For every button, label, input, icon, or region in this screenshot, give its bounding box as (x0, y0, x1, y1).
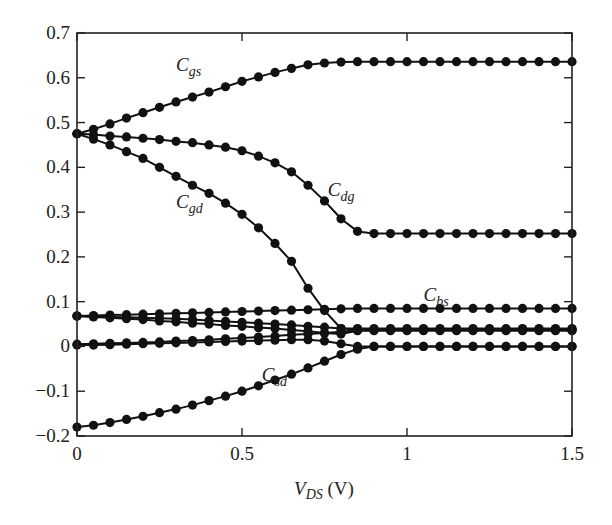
y-tick-label: 0.5 (46, 112, 70, 133)
data-point (254, 152, 263, 161)
data-point (221, 143, 230, 152)
data-point (122, 415, 131, 424)
data-point (369, 325, 378, 334)
data-point (122, 314, 131, 323)
data-point (138, 154, 147, 163)
data-point (303, 284, 312, 293)
data-point (320, 305, 329, 314)
data-point (155, 163, 164, 172)
data-point (270, 239, 279, 248)
data-point (435, 57, 444, 66)
data-point (303, 60, 312, 69)
y-tick-label: 0.2 (46, 246, 70, 267)
data-point (204, 88, 213, 97)
curve-c-gd (77, 134, 572, 330)
data-point (204, 396, 213, 405)
data-point (419, 342, 428, 351)
data-point (188, 401, 197, 410)
data-point (204, 337, 213, 346)
data-point (402, 304, 411, 313)
data-point (237, 210, 246, 219)
curve-c-dg (77, 134, 572, 234)
data-point (155, 339, 164, 348)
data-point (171, 97, 180, 106)
y-tick-label: 0.1 (46, 291, 70, 312)
x-tick-label: 0 (72, 443, 82, 464)
data-point (204, 140, 213, 149)
data-point (155, 316, 164, 325)
data-point (171, 405, 180, 414)
y-tick-label: −0.2 (36, 425, 70, 446)
data-point (402, 57, 411, 66)
x-axis-label: VDS (V) (294, 478, 354, 502)
data-point (419, 229, 428, 238)
label-c-bs: Cbs (424, 284, 450, 309)
data-point (435, 229, 444, 238)
y-tick-label: 0.4 (46, 156, 70, 177)
data-point (138, 134, 147, 143)
data-point (155, 103, 164, 112)
data-point (188, 92, 197, 101)
data-point (270, 306, 279, 315)
data-point (402, 229, 411, 238)
data-point (237, 77, 246, 86)
data-point (270, 336, 279, 345)
data-point (336, 214, 345, 223)
data-point (452, 342, 461, 351)
y-tick-label: 0 (61, 335, 71, 356)
data-point (435, 325, 444, 334)
data-point (221, 199, 230, 208)
data-point (551, 342, 560, 351)
data-point (155, 135, 164, 144)
data-point (485, 229, 494, 238)
data-point (254, 323, 263, 332)
data-point (386, 342, 395, 351)
data-point (501, 325, 510, 334)
data-point (204, 308, 213, 317)
data-point (468, 325, 477, 334)
data-point (221, 321, 230, 330)
data-point (155, 408, 164, 417)
data-point (188, 338, 197, 347)
label-c-gs: Cgs (176, 54, 202, 79)
data-point (89, 312, 98, 321)
data-point (171, 172, 180, 181)
data-point (369, 229, 378, 238)
axis-ticks: 00.511.5−0.2−0.100.10.20.30.40.50.60.7 (36, 22, 584, 464)
data-point (138, 108, 147, 117)
data-point (287, 167, 296, 176)
data-point (237, 387, 246, 396)
data-point (452, 304, 461, 313)
label-c-dg: Cdg (328, 179, 355, 204)
data-point (336, 58, 345, 67)
data-point (501, 304, 510, 313)
data-point (534, 229, 543, 238)
x-tick-label: 1 (402, 443, 412, 464)
data-point (518, 57, 527, 66)
data-point (419, 325, 428, 334)
data-point (122, 147, 131, 156)
label-c-gd: Cgd (176, 191, 204, 216)
data-point (452, 57, 461, 66)
data-point (534, 325, 543, 334)
data-point (468, 57, 477, 66)
data-point (336, 304, 345, 313)
data-point (452, 325, 461, 334)
data-point (287, 335, 296, 344)
data-point (353, 57, 362, 66)
data-point (138, 315, 147, 324)
data-point (551, 57, 560, 66)
data-point (501, 57, 510, 66)
data-point (287, 306, 296, 315)
data-point (254, 72, 263, 81)
data-point (237, 146, 246, 155)
data-point (402, 342, 411, 351)
data-point (386, 325, 395, 334)
data-point (336, 327, 345, 336)
data-point (237, 307, 246, 316)
data-point (105, 131, 114, 140)
data-point (237, 322, 246, 331)
data-point (254, 306, 263, 315)
data-point (188, 319, 197, 328)
data-point (188, 138, 197, 147)
